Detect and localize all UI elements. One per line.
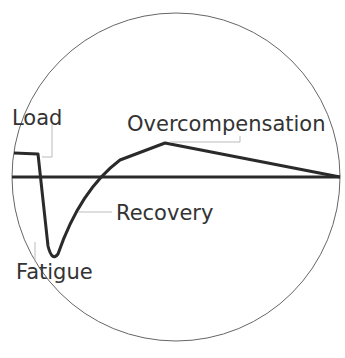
overcompensation-leader	[170, 136, 240, 142]
overcompensation-label: Overcompensation	[127, 114, 326, 135]
load-label: Load	[12, 108, 62, 129]
diagram-canvas	[0, 0, 345, 358]
fatigue-label: Fatigue	[16, 262, 93, 283]
performance-curve	[14, 143, 340, 257]
recovery-label: Recovery	[116, 203, 213, 224]
